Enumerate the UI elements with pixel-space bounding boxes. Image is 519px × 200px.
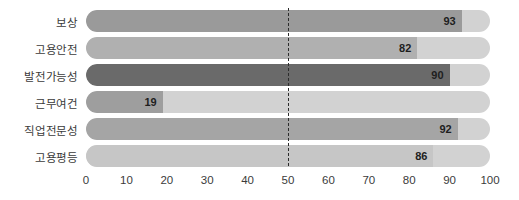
bar-fill [86,145,433,167]
category-label: 보상 [0,14,78,30]
x-axis-tick-label: 40 [228,174,268,186]
bar-fill [86,118,458,140]
bar-fill [86,37,417,59]
x-axis: 0102030405060708090100 [0,174,519,194]
x-axis-tick-label: 20 [147,174,187,186]
x-axis-tick-label: 30 [187,174,227,186]
x-axis-tick-label: 50 [268,174,308,186]
reference-line-50 [288,8,289,166]
category-label: 근무여건 [0,95,78,111]
horizontal-bar-chart: 0102030405060708090100 보상93고용안전82발전가능성90… [0,0,519,200]
x-axis-tick-label: 0 [66,174,106,186]
category-label: 고용안전 [0,41,78,57]
bar-fill [86,91,163,113]
x-axis-tick-label: 70 [349,174,389,186]
category-label: 발전가능성 [0,68,78,84]
category-label: 직업전문성 [0,122,78,138]
x-axis-tick-label: 90 [430,174,470,186]
bar-fill [86,10,462,32]
category-label: 고용평등 [0,149,78,165]
x-axis-tick-label: 80 [389,174,429,186]
bar-fill [86,64,450,86]
x-axis-tick-label: 60 [308,174,348,186]
x-axis-tick-label: 100 [470,174,510,186]
x-axis-tick-label: 10 [106,174,146,186]
